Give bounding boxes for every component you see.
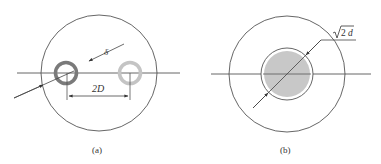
caption-b: (b) [280,145,291,155]
spacing-label: 2D [92,83,105,94]
delta-arrow-lower [14,85,43,98]
figure-canvas: 2D δ (a) 2 d (b) [0,0,381,164]
diameter-arrow-lower [253,93,268,108]
diameter-label-number: 2 [341,28,346,38]
diameter-label-var: d [348,28,353,38]
panel-a: 2D δ (a) [14,15,180,155]
diameter-arrow-upper [306,40,321,55]
caption-a: (a) [92,145,102,155]
panel-b: 2 d (b) [211,16,371,155]
